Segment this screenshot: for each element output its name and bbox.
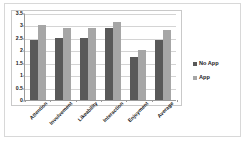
chart-screenshot: 00.511.522.533.5 AttentionInvolvementLik… [0, 0, 246, 142]
legend-item-app[interactable]: App [193, 74, 241, 81]
bar-enjoyment-app [138, 50, 146, 100]
bar-group [25, 14, 50, 100]
bar-group [126, 14, 151, 100]
x-axis-category-labels: AttentionInvolvementLikeabilityInteracti… [24, 101, 176, 135]
bar-group [101, 14, 126, 100]
y-axis-tick-label: 2.5 [16, 36, 23, 41]
bar-enjoyment-no-app [130, 57, 138, 101]
x-axis-tickmark [177, 100, 178, 102]
y-axis-tick-label: 1.5 [16, 61, 23, 66]
bar-group [151, 14, 176, 100]
bar-interaction-no-app [105, 28, 113, 100]
legend-label: No App [199, 61, 219, 67]
plot-area: 00.511.522.533.5 [24, 14, 176, 101]
bar-involvement-app [63, 28, 71, 100]
bar-average-no-app [155, 40, 163, 100]
bar-involvement-no-app [55, 38, 63, 100]
legend-label: App [199, 75, 210, 81]
bar-attention-no-app [30, 40, 38, 100]
y-axis-tick-label: 0.5 [16, 86, 23, 91]
bar-interaction-app [113, 22, 121, 100]
bar-attention-app [38, 25, 46, 100]
legend-swatch-icon [193, 76, 197, 80]
bar-likeability-app [88, 28, 96, 100]
bar-group [75, 14, 100, 100]
legend-swatch-icon [193, 62, 197, 66]
legend-item-no-app[interactable]: No App [193, 60, 241, 67]
bar-group [50, 14, 75, 100]
bar-groups [25, 14, 176, 100]
chart-legend: No AppApp [193, 60, 241, 88]
bar-average-app [163, 30, 171, 100]
bar-likeability-no-app [80, 38, 88, 100]
y-axis-tick-label: 3.5 [16, 11, 23, 16]
